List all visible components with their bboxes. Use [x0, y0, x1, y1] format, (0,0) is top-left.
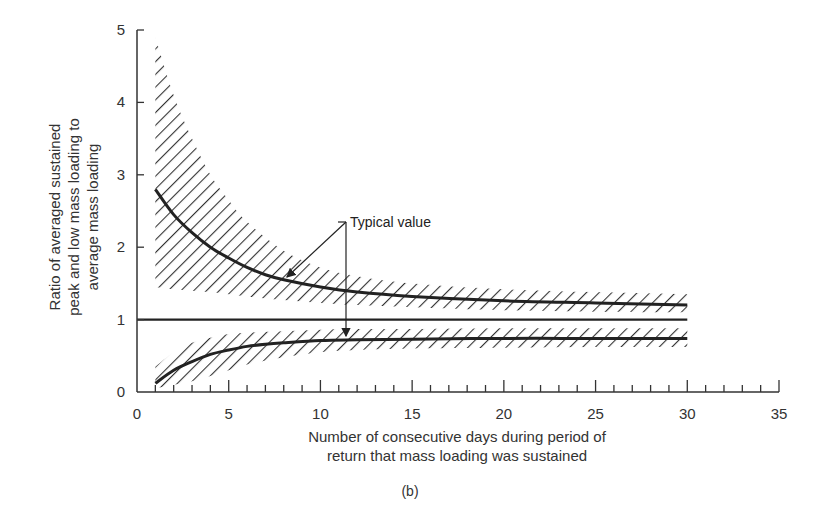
- x-axis-title: Number of consecutive days during period…: [308, 428, 606, 445]
- x-tick-label: 15: [404, 405, 421, 422]
- x-tick-label: 10: [312, 405, 329, 422]
- figure-caption: (b): [401, 483, 418, 499]
- y-axis-title-line: peak and low mass loading to: [65, 118, 82, 316]
- x-axis-title: return that mass loading was sustained: [327, 447, 587, 464]
- x-tick-label: 35: [771, 405, 788, 422]
- x-tick-label: 5: [225, 405, 233, 422]
- x-tick-label: 20: [496, 405, 513, 422]
- y-axis-title-line: average mass loading: [84, 144, 101, 291]
- y-tick-label: 2: [117, 238, 125, 255]
- y-tick-label: 1: [117, 311, 125, 328]
- x-tick-label: 30: [679, 405, 696, 422]
- hatched-bands: [155, 37, 687, 388]
- annotation-label: Typical value: [350, 214, 431, 230]
- y-axis-title: Ratio of averaged sustainedpeak and low …: [46, 118, 101, 316]
- y-axis-title-line: Ratio of averaged sustained: [46, 124, 63, 311]
- chart-canvas: 05101520253035012345 Typical value Numbe…: [0, 0, 825, 506]
- y-tick-label: 0: [117, 383, 125, 400]
- y-tick-label: 4: [117, 93, 125, 110]
- x-tick-label: 25: [587, 405, 604, 422]
- y-tick-label: 5: [117, 21, 125, 38]
- x-tick-label: 0: [133, 405, 141, 422]
- y-tick-label: 3: [117, 166, 125, 183]
- peak-range-band: [155, 37, 687, 312]
